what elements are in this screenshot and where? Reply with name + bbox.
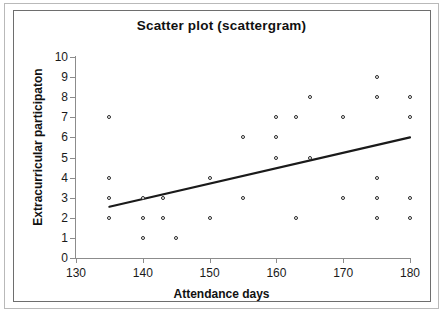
data-point [241, 196, 245, 200]
plot-area [76, 57, 410, 258]
y-tick-6 [70, 137, 75, 138]
x-tick-label-150: 150 [186, 266, 234, 280]
y-tick-label-1: 1 [28, 232, 68, 244]
y-tick-8 [70, 97, 75, 98]
y-tick-label-3: 3 [28, 192, 68, 204]
x-axis-title: Attendance days [0, 287, 443, 301]
y-tick-label-9: 9 [28, 71, 68, 83]
y-tick-label-5: 5 [28, 152, 68, 164]
data-point [161, 196, 165, 200]
x-tick-160 [276, 258, 277, 263]
data-point [308, 156, 312, 160]
data-point [208, 216, 212, 220]
data-point [375, 75, 379, 79]
scatter-plot-figure: Scatter plot (scattergram) Extracurricul… [0, 0, 443, 314]
y-tick-10 [70, 57, 75, 58]
x-tick-label-180: 180 [386, 266, 434, 280]
x-axis-line [75, 258, 411, 259]
y-tick-7 [70, 117, 75, 118]
y-tick-label-0: 0 [28, 252, 68, 264]
x-tick-130 [76, 258, 77, 263]
x-tick-150 [210, 258, 211, 263]
x-tick-170 [343, 258, 344, 263]
x-tick-label-160: 160 [252, 266, 300, 280]
x-tick-label-130: 130 [52, 266, 100, 280]
y-tick-label-4: 4 [28, 172, 68, 184]
y-tick-label-2: 2 [28, 212, 68, 224]
data-point [375, 95, 379, 99]
x-tick-180 [410, 258, 411, 263]
y-tick-label-6: 6 [28, 131, 68, 143]
data-point [308, 95, 312, 99]
trendline [76, 57, 410, 258]
data-point [408, 196, 412, 200]
y-tick-2 [70, 218, 75, 219]
y-tick-label-10: 10 [28, 51, 68, 63]
x-tick-140 [143, 258, 144, 263]
y-tick-1 [70, 238, 75, 239]
y-tick-label-8: 8 [28, 91, 68, 103]
data-point [161, 216, 165, 220]
data-point [141, 216, 145, 220]
chart-title: Scatter plot (scattergram) [0, 18, 443, 33]
data-point [408, 216, 412, 220]
data-point [375, 216, 379, 220]
y-tick-0 [70, 258, 75, 259]
data-point [208, 176, 212, 180]
y-tick-label-7: 7 [28, 111, 68, 123]
data-point [274, 156, 278, 160]
data-point [341, 196, 345, 200]
y-tick-4 [70, 178, 75, 179]
data-point [141, 236, 145, 240]
data-point [375, 196, 379, 200]
data-point [375, 176, 379, 180]
y-tick-3 [70, 198, 75, 199]
data-point [141, 196, 145, 200]
y-tick-5 [70, 158, 75, 159]
x-tick-label-170: 170 [319, 266, 367, 280]
y-tick-9 [70, 77, 75, 78]
x-tick-label-140: 140 [119, 266, 167, 280]
